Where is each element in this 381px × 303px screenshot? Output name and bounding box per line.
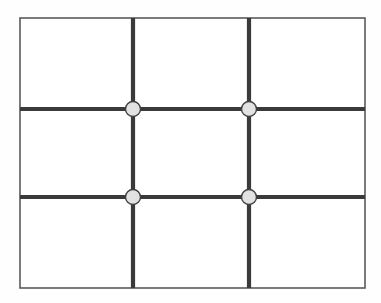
- node-bottom-right: [242, 190, 257, 205]
- cell-r3c1: [20, 197, 133, 288]
- cell-r2c3: [249, 109, 365, 197]
- grid-cells-group: [20, 18, 365, 288]
- node-bottom-left: [126, 190, 141, 205]
- diagram-canvas: [0, 0, 381, 303]
- grid-diagram: [0, 0, 381, 303]
- cell-r2c2: [133, 109, 249, 197]
- cell-r2c1: [20, 109, 133, 197]
- cell-r3c3: [249, 197, 365, 288]
- cell-r3c2: [133, 197, 249, 288]
- node-top-left: [126, 102, 141, 117]
- cell-r1c2: [133, 18, 249, 109]
- node-top-right: [242, 102, 257, 117]
- cell-r1c3: [249, 18, 365, 109]
- cell-r1c1: [20, 18, 133, 109]
